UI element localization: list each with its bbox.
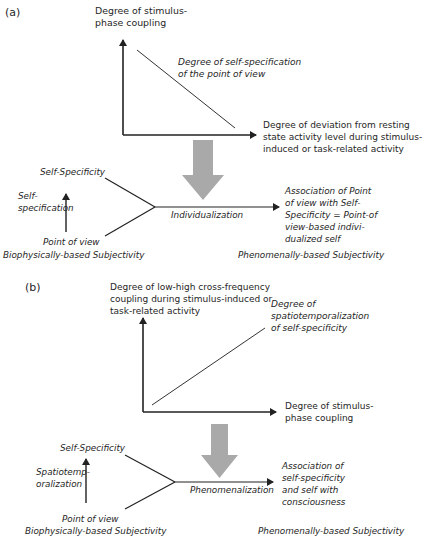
panel-a-individualization-label: Individualization [171,209,243,221]
down-arrow-icon [182,140,224,200]
panel-b-line-label: Degree of spatiotemporalization of self-… [271,298,369,334]
panel-a-y-axis-label: Degree of stimulus- phase coupling [95,5,187,29]
panel-a-label: (a) [5,7,20,19]
panel-b-spatiotemporalization-label: Spatiotemp- oralization [36,466,90,490]
panel-a-chart-axes [123,40,256,135]
panel-b-phenomenal-caption: Phenomenally-based Subjectivity [258,525,404,537]
down-arrow-icon [201,424,238,478]
panel-b-result-text: Association of self-specificity and self… [282,460,345,508]
increasing-trend-line [152,328,265,405]
panel-b-label: (b) [25,282,41,294]
panel-a-self-specification-label: Self- specification [18,190,74,214]
panel-a-flow-lines [66,178,279,236]
panel-a-phenomenal-caption: Phenomenally-based Subjectivity [238,249,384,261]
panel-a-biophysical-caption: Biophysically-based Subjectivity [3,249,144,261]
panel-b-biophysical-caption: Biophysically-based Subjectivity [25,525,166,537]
panel-a-self-specificity: Self-Specificity [40,166,105,178]
panel-a-x-axis-label: Degree of deviation from resting state a… [263,119,422,155]
panel-a-result-text: Association of Point of view with Self- … [285,185,377,245]
panel-a-line-label: Degree of self-specification of the poin… [178,56,301,80]
panel-a-point-of-view: Point of view [43,236,99,248]
panel-b-point-of-view: Point of view [62,513,118,525]
panel-b-y-axis-label: Degree of low-high cross-frequency coupl… [110,281,272,317]
panel-b-chart-axes [143,318,276,412]
panel-b-flow-lines [86,455,273,509]
panel-b-phenomenalization-label: Phenomenalization [190,484,274,496]
panel-b-x-axis-label: Degree of stimulus- phase coupling [285,400,373,424]
panel-b-self-specificity: Self-Specificity [60,442,125,454]
